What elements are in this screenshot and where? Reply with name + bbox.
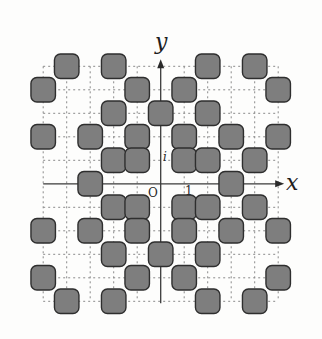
gaussian-prime-square <box>195 54 220 79</box>
gaussian-prime-square <box>31 219 56 244</box>
gaussian-prime-square <box>266 125 291 150</box>
gaussian-prime-square <box>148 101 173 126</box>
gaussian-prime-square <box>125 148 150 173</box>
gaussian-prime-square <box>266 78 291 103</box>
gaussian-prime-square <box>219 125 244 150</box>
gaussian-prime-square <box>125 266 150 291</box>
gaussian-prime-square <box>78 172 103 197</box>
gaussian-prime-square <box>172 78 197 103</box>
unit-real-label: 1 <box>185 184 193 198</box>
gaussian-prime-square <box>54 289 78 314</box>
gaussian-prime-square <box>195 148 220 173</box>
gaussian-prime-square <box>125 125 150 150</box>
gaussian-prime-square <box>242 289 267 314</box>
gaussian-prime-square <box>101 54 126 79</box>
gaussian-prime-square <box>172 219 197 244</box>
gaussian-prime-square <box>101 148 126 173</box>
origin-label: O <box>148 186 158 200</box>
gaussian-prime-square <box>195 289 220 314</box>
gaussian-prime-square <box>242 148 267 173</box>
gaussian-prime-square <box>172 125 197 150</box>
gaussian-prime-square <box>31 78 56 103</box>
y-axis-arrow-icon <box>157 59 164 68</box>
gaussian-prime-square <box>195 242 220 266</box>
gaussian-prime-square <box>242 195 267 220</box>
gaussian-prime-square <box>242 54 267 79</box>
gaussian-prime-square <box>219 172 244 197</box>
gaussian-prime-square <box>266 266 291 291</box>
gaussian-prime-square <box>125 195 150 220</box>
gaussian-prime-square <box>195 195 220 220</box>
gaussian-prime-square <box>101 289 126 314</box>
gaussian-prime-square <box>172 195 197 220</box>
gaussian-prime-square <box>101 242 126 266</box>
gaussian-prime-square <box>125 78 150 103</box>
x-axis-label: x <box>286 170 299 195</box>
unit-imag-label: i <box>163 150 167 164</box>
gaussian-prime-square <box>78 219 103 244</box>
gaussian-prime-square <box>31 266 56 291</box>
gaussian-prime-square <box>172 148 197 173</box>
gaussian-prime-square <box>101 195 126 220</box>
gaussian-prime-square <box>54 54 78 79</box>
gaussian-prime-square <box>148 242 173 266</box>
x-axis-arrow-icon <box>275 180 284 187</box>
gaussian-prime-square <box>31 125 56 150</box>
gaussian-prime-square <box>266 219 291 244</box>
gaussian-primes-diagram: x y O 1 i <box>0 0 322 339</box>
gaussian-prime-square <box>78 125 103 150</box>
gaussian-prime-square <box>195 101 220 126</box>
gaussian-prime-square <box>101 101 126 126</box>
y-axis-label: y <box>154 29 168 54</box>
gaussian-prime-square <box>172 266 197 291</box>
gaussian-prime-square <box>125 219 150 244</box>
gaussian-prime-square <box>219 219 244 244</box>
